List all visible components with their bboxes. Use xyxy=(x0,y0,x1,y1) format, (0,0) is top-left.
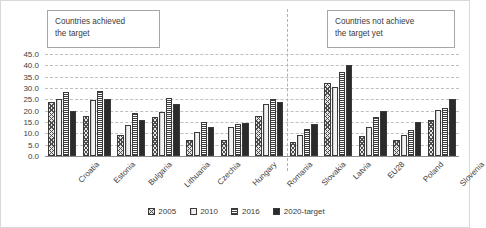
bar xyxy=(255,116,261,156)
bar xyxy=(324,83,330,156)
bar-group xyxy=(218,54,253,156)
y-axis-tick-label: 10.0 xyxy=(23,129,39,138)
bar xyxy=(346,65,352,156)
legend-label: 2016 xyxy=(242,207,260,216)
bar xyxy=(449,99,455,156)
bar xyxy=(408,130,414,156)
y-axis-tick-label: 0.0 xyxy=(28,152,39,161)
y-axis-tick-label: 40.0 xyxy=(23,61,39,70)
bar xyxy=(208,127,214,156)
legend-swatch xyxy=(231,208,238,215)
bar xyxy=(97,91,103,156)
legend-item: 2016 xyxy=(231,207,260,216)
bar xyxy=(70,111,76,156)
x-axis-tick-label: Latvia xyxy=(352,160,373,181)
bar xyxy=(297,135,303,156)
bar xyxy=(373,117,379,156)
legend-label: 2010 xyxy=(200,207,218,216)
y-axis-tick-label: 15.0 xyxy=(23,118,39,127)
bar xyxy=(401,135,407,156)
bar xyxy=(332,87,338,156)
callout-countries-not-achieved-target: Countries not achieve the target yet xyxy=(327,10,455,48)
x-axis-tick-label: Croatia xyxy=(77,160,102,185)
y-axis-tick-label: 35.0 xyxy=(23,72,39,81)
bar-group xyxy=(80,54,115,156)
legend-swatch xyxy=(273,208,280,215)
bar xyxy=(366,127,372,156)
x-axis-tick-label: EU28 xyxy=(386,160,407,181)
bar xyxy=(173,104,179,156)
bar xyxy=(117,135,123,156)
bar xyxy=(263,104,269,156)
bar xyxy=(228,127,234,156)
bar xyxy=(277,102,283,156)
bar xyxy=(139,120,145,156)
bar xyxy=(235,124,241,156)
bar xyxy=(359,136,365,156)
bar-group xyxy=(321,54,356,156)
bar xyxy=(304,129,310,156)
bar xyxy=(339,72,345,156)
x-axis-tick-label: Poland xyxy=(422,160,446,184)
x-axis-tick-label: Lithuania xyxy=(182,160,211,189)
x-axis-line xyxy=(45,156,459,157)
bar xyxy=(428,120,434,156)
legend-label: 2005 xyxy=(158,207,176,216)
bar-group xyxy=(252,54,287,156)
bar-group xyxy=(183,54,218,156)
x-axis-tick-label: Slovakia xyxy=(320,160,348,188)
legend-item: 2020-target xyxy=(273,207,325,216)
bar-group xyxy=(287,54,322,156)
bar xyxy=(242,123,248,156)
bar xyxy=(152,117,158,156)
bar xyxy=(166,98,172,156)
bar xyxy=(415,122,421,156)
bar xyxy=(221,140,227,156)
bar-group xyxy=(114,54,149,156)
bar xyxy=(125,125,131,157)
bar xyxy=(159,112,165,156)
y-axis: 45.040.035.030.025.020.015.010.05.00.0 xyxy=(1,54,42,156)
bar xyxy=(56,99,62,156)
bar-group xyxy=(356,54,391,156)
y-axis-tick-label: 45.0 xyxy=(23,50,39,59)
bar-group xyxy=(149,54,184,156)
bar xyxy=(194,132,200,156)
bar xyxy=(63,92,69,156)
y-axis-tick-label: 20.0 xyxy=(23,106,39,115)
legend-item: 2005 xyxy=(147,207,176,216)
callout-countries-achieved-target: Countries achieved the target xyxy=(47,10,160,48)
bar xyxy=(104,99,110,156)
bar xyxy=(83,116,89,156)
y-axis-tick-label: 30.0 xyxy=(23,84,39,93)
bar-group xyxy=(390,54,425,156)
legend-swatch xyxy=(148,208,155,215)
bar-group xyxy=(45,54,80,156)
legend-swatch xyxy=(190,208,197,215)
bar xyxy=(270,99,276,156)
achieved-target-divider xyxy=(287,9,288,171)
x-axis-tick-label: Hungary xyxy=(251,160,279,188)
bar xyxy=(435,110,441,156)
bar xyxy=(393,140,399,156)
x-axis-tick-label: Estonia xyxy=(112,160,137,185)
bar xyxy=(442,108,448,156)
x-axis-tick-label: Romania xyxy=(286,160,315,189)
bar xyxy=(186,140,192,156)
y-axis-tick-label: 25.0 xyxy=(23,95,39,104)
bar-group xyxy=(425,54,460,156)
plot-area xyxy=(45,54,459,156)
chart-legend: 2005201020162020-target xyxy=(1,207,471,216)
legend-label: 2020-target xyxy=(284,207,325,216)
bar xyxy=(132,113,138,156)
x-axis-labels: CroatiaEstoniaBulgariaLithuaniaCzechiaHu… xyxy=(45,158,459,204)
x-axis-tick-label: Bulgaria xyxy=(147,160,174,187)
bar xyxy=(48,102,54,156)
y-axis-tick-label: 5.0 xyxy=(28,140,39,149)
legend-item: 2010 xyxy=(189,207,218,216)
x-axis-tick-label: Czechia xyxy=(216,160,243,187)
bar xyxy=(380,111,386,156)
bar xyxy=(311,124,317,156)
bar xyxy=(201,122,207,156)
